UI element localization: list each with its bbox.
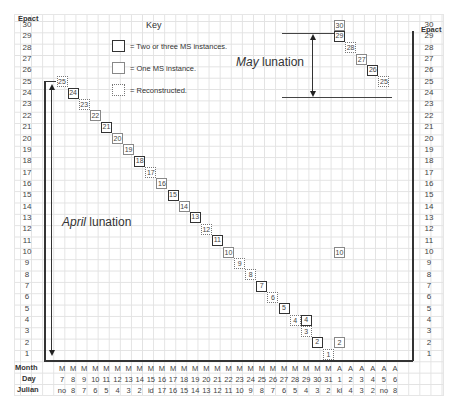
months-cell: M	[159, 364, 165, 373]
days-cell: 18	[180, 375, 188, 384]
epact-box: 29	[334, 31, 345, 42]
epact-box: 17	[145, 167, 156, 178]
right-epact-tick: 22	[425, 111, 434, 120]
days-cell: 16	[158, 375, 166, 384]
left-axis-line	[44, 81, 46, 361]
julian-row-label: Julian	[17, 385, 39, 394]
epact-box: 16	[156, 178, 167, 189]
epact-box: 18	[134, 156, 145, 167]
left-epact-tick: 11	[23, 236, 31, 245]
right-epact-tick: 19	[425, 145, 434, 154]
epact-box: 25	[57, 76, 68, 87]
julian-cell: 8	[260, 386, 264, 395]
left-epact-tick: 24	[23, 88, 32, 97]
epact-box: 25	[378, 76, 389, 87]
months-cell: M	[92, 364, 98, 373]
may-bottom-line	[282, 97, 392, 98]
months-cell: M	[137, 364, 143, 373]
key-title: Key	[146, 20, 162, 30]
month-row-label: Month	[15, 363, 38, 372]
epact-box: 1	[323, 349, 334, 360]
may-arrow-down-icon	[310, 91, 316, 97]
julian-cell: 9	[249, 386, 253, 395]
may-arrow-up-icon	[310, 34, 316, 40]
epact-box: 2	[334, 337, 345, 348]
epact-box: 3	[301, 326, 312, 337]
left-epact-tick: 16	[23, 179, 32, 188]
days-cell: 28	[291, 375, 299, 384]
right-epact-tick: 8	[427, 270, 431, 279]
left-epact-tick: 15	[23, 190, 32, 199]
days-cell: 15	[147, 375, 155, 384]
right-epact-tick: 26	[425, 65, 434, 74]
epact-box: 10	[223, 247, 234, 258]
months-cell: M	[192, 364, 198, 373]
left-epact-tick: 14	[23, 202, 32, 211]
days-cell: 5	[382, 375, 386, 384]
months-cell: M	[214, 364, 220, 373]
left-epact-tick: 7	[25, 281, 29, 290]
months-cell: M	[70, 364, 76, 373]
months-cell: M	[259, 364, 265, 373]
left-epact-tick: 4	[25, 315, 29, 324]
days-cell: 24	[247, 375, 255, 384]
julian-cell: 3	[315, 386, 319, 395]
months-cell: M	[103, 364, 109, 373]
epact-box: 22	[90, 110, 101, 121]
right-epact-tick: 28	[425, 43, 434, 52]
days-cell: 26	[269, 375, 277, 384]
julian-cell: 4	[349, 386, 353, 395]
days-cell: 17	[169, 375, 177, 384]
left-epact-tick: 10	[23, 247, 32, 256]
epact-box: 14	[179, 201, 190, 212]
days-cell: 2	[349, 375, 353, 384]
julian-cell: 16	[169, 386, 177, 395]
left-epact-tick: 2	[25, 338, 29, 347]
right-epact-tick: 18	[425, 156, 434, 165]
epact-box: 24	[68, 88, 79, 99]
may-lunation-label: May lunation	[236, 55, 304, 69]
julian-cell: 13	[202, 386, 210, 395]
bottom-axis-line	[44, 360, 413, 362]
left-epact-tick: 17	[23, 168, 32, 177]
days-cell: 10	[91, 375, 99, 384]
days-cell: 4	[371, 375, 375, 384]
key-thick-box	[112, 40, 125, 52]
epact-box: 5	[279, 303, 290, 314]
julian-cell: 3	[127, 386, 131, 395]
days-cell: 27	[280, 375, 288, 384]
epact-box: 10	[334, 247, 345, 258]
right-epact-tick: 23	[425, 99, 434, 108]
julian-cell: 5	[104, 386, 108, 395]
julian-cell: 4	[115, 386, 119, 395]
epact-diagram: Epact Epact 3029282726252423222120191817…	[0, 0, 458, 403]
julian-cell: 2	[371, 386, 375, 395]
months-cell: M	[59, 364, 65, 373]
days-cell: 22	[224, 375, 232, 384]
right-epact-tick: 21	[425, 122, 434, 131]
months-cell: M	[203, 364, 209, 373]
julian-cell: 14	[191, 386, 199, 395]
left-epact-tick: 13	[23, 213, 32, 222]
left-epact-tick: 21	[23, 122, 32, 131]
right-epact-tick: 4	[427, 315, 431, 324]
julian-cell: kl	[337, 386, 342, 395]
months-cell: M	[325, 364, 331, 373]
right-epact-tick: 7	[427, 281, 431, 290]
epact-box: 19	[123, 144, 134, 155]
left-epact-tick: 30	[23, 20, 32, 29]
months-cell: A	[370, 364, 375, 373]
days-cell: 11	[102, 375, 110, 384]
months-cell: M	[292, 364, 298, 373]
months-cell: M	[125, 364, 131, 373]
right-epact-tick: 9	[427, 258, 431, 267]
julian-cell: 7	[271, 386, 275, 395]
left-epact-tick: 22	[23, 111, 32, 120]
julian-cell: 3	[360, 386, 364, 395]
julian-cell: 11	[225, 386, 233, 395]
julian-cell: no	[380, 386, 388, 395]
epact-box: 21	[101, 122, 112, 133]
left-epact-tick: 28	[23, 43, 32, 52]
right-epact-tick: 17	[425, 168, 434, 177]
days-cell: 23	[235, 375, 243, 384]
